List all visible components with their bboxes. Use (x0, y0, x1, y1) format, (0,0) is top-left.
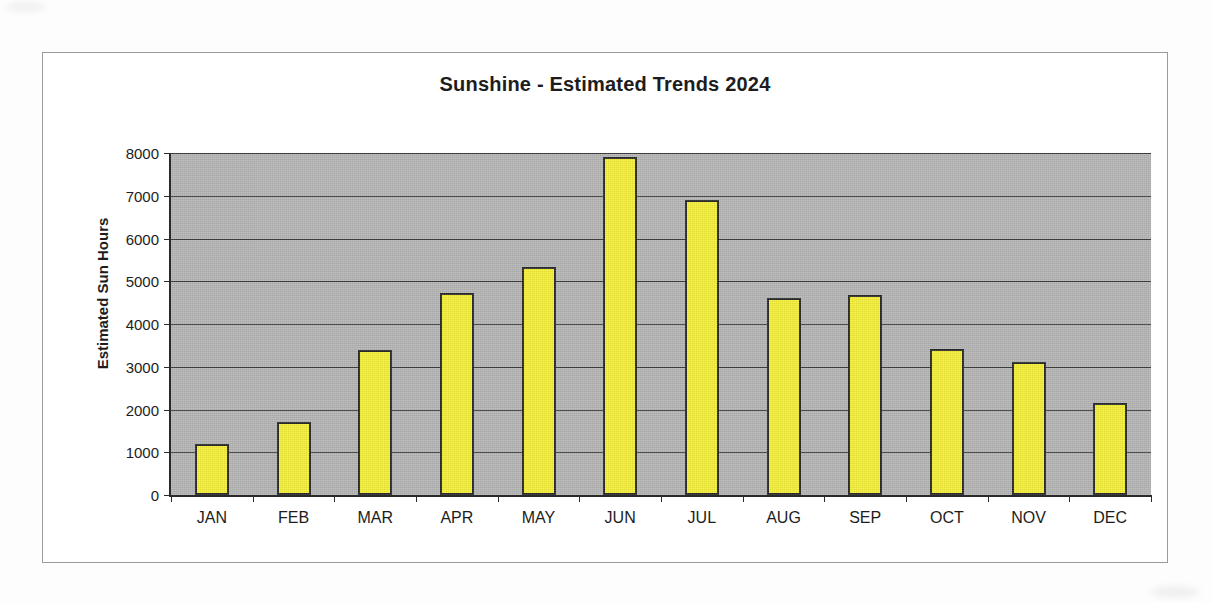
gridline (171, 281, 1151, 282)
x-axis-tick-label-jun: JUN (605, 509, 636, 527)
bar-aug (767, 298, 801, 495)
x-axis-tick-label-nov: NOV (1011, 509, 1046, 527)
x-axis-tick-label-jan: JAN (197, 509, 227, 527)
plot-area: 800070006000500040003000200010000 JANFEB… (169, 153, 1151, 497)
bar-grain-texture (279, 424, 309, 493)
x-axis-tickmark (1069, 495, 1070, 502)
bar-oct (930, 349, 964, 495)
bar-jun (603, 157, 637, 495)
x-axis-tick-label-mar: MAR (357, 509, 393, 527)
y-axis-tickmark (164, 410, 171, 411)
bar-jan (195, 444, 229, 495)
bar-sep (848, 295, 882, 495)
bar-dec (1093, 403, 1127, 495)
x-axis-tickmark (906, 495, 907, 502)
bar-grain-texture (1095, 405, 1125, 493)
bar-apr (440, 293, 474, 495)
x-axis-tick-label-dec: DEC (1093, 509, 1127, 527)
x-axis-tick-label-sep: SEP (849, 509, 881, 527)
x-axis-tick-label-feb: FEB (278, 509, 309, 527)
bar-nov (1012, 362, 1046, 495)
x-axis-tickmark (334, 495, 335, 502)
x-axis-tickmark (824, 495, 825, 502)
x-axis-tickmark (988, 495, 989, 502)
bar-grain-texture (197, 446, 227, 493)
bar-feb (277, 422, 311, 495)
y-axis-tickmark (164, 153, 171, 154)
x-axis-tickmark (498, 495, 499, 502)
y-axis-tickmark (164, 495, 171, 496)
chart-title: Sunshine - Estimated Trends 2024 (43, 73, 1167, 96)
x-axis-tickmark (661, 495, 662, 502)
bar-grain-texture (769, 300, 799, 493)
x-axis-tick-label-may: MAY (522, 509, 555, 527)
gridline (171, 239, 1151, 240)
bar-mar (358, 350, 392, 495)
gridline (171, 324, 1151, 325)
bar-grain-texture (442, 295, 472, 493)
bar-grain-texture (1014, 364, 1044, 493)
y-axis-tickmark (164, 324, 171, 325)
x-axis-tick-label-oct: OCT (930, 509, 964, 527)
gridline (171, 367, 1151, 368)
scan-smudge (6, 2, 46, 12)
bar-grain-texture (605, 159, 635, 493)
x-axis-tickmark (579, 495, 580, 502)
y-axis-tick-label: 7000 (126, 187, 159, 204)
y-axis-title: Estimated Sun Hours (94, 194, 111, 394)
y-axis-tickmark (164, 281, 171, 282)
y-axis-tick-label: 5000 (126, 273, 159, 290)
bar-grain-texture (932, 351, 962, 493)
y-axis-tick-label: 1000 (126, 444, 159, 461)
bar-grain-texture (360, 352, 390, 493)
gridline (171, 410, 1151, 411)
gridline (171, 452, 1151, 453)
x-axis-tick-label-apr: APR (440, 509, 473, 527)
y-axis-tick-label: 8000 (126, 145, 159, 162)
x-axis-tick-label-jul: JUL (688, 509, 716, 527)
scan-smudge (1150, 586, 1200, 598)
scanned-page: Sunshine - Estimated Trends 2024 Estimat… (0, 0, 1212, 603)
y-axis-tick-label: 6000 (126, 230, 159, 247)
y-axis-tickmark (164, 367, 171, 368)
gridline (171, 153, 1151, 154)
bar-may (522, 267, 556, 495)
bar-jul (685, 200, 719, 495)
y-axis-tickmark (164, 452, 171, 453)
y-axis-tick-label: 2000 (126, 401, 159, 418)
y-axis-tick-label: 0 (151, 487, 159, 504)
y-axis-tick-label: 4000 (126, 316, 159, 333)
x-axis-tickmark (1151, 495, 1152, 502)
x-axis-tickmark (171, 495, 172, 502)
chart-frame: Sunshine - Estimated Trends 2024 Estimat… (42, 52, 1168, 563)
y-axis-tickmark (164, 196, 171, 197)
x-axis-tickmark (253, 495, 254, 502)
bar-grain-texture (687, 202, 717, 493)
y-axis-tick-label: 3000 (126, 358, 159, 375)
x-axis-tickmark (416, 495, 417, 502)
x-axis-tick-label-aug: AUG (766, 509, 801, 527)
gridline (171, 196, 1151, 197)
bar-grain-texture (524, 269, 554, 493)
y-axis-tickmark (164, 239, 171, 240)
bar-grain-texture (850, 297, 880, 493)
x-axis-tickmark (743, 495, 744, 502)
